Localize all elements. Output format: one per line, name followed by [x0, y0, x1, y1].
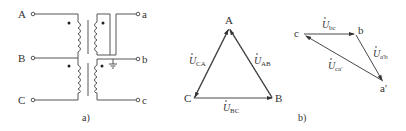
- phasor-label-UAB: U AB: [254, 53, 271, 68]
- terminal-c: c: [142, 94, 147, 106]
- vertex-B: B: [275, 92, 282, 104]
- phasor-label-Uab: U a'b: [373, 46, 388, 61]
- terminal-b: b: [142, 53, 148, 65]
- vertex-b: b: [358, 24, 364, 36]
- phasor-label-Ubc: U bc: [322, 17, 336, 32]
- phasor-label-Uca: U ca': [328, 58, 342, 73]
- polarity-dots: [68, 22, 105, 68]
- phasor-label-UBC: U BC: [223, 100, 240, 115]
- svg-text:ca': ca': [335, 65, 342, 73]
- terminal-C: C: [18, 94, 25, 106]
- transformer-schematic: [31, 12, 140, 102]
- phasor-label-UCA: U CA: [189, 53, 206, 68]
- caption-a: a): [82, 112, 90, 124]
- svg-text:BC: BC: [230, 107, 240, 115]
- caption-b: b): [298, 112, 306, 124]
- vertex-C: C: [184, 92, 191, 104]
- svg-text:AB: AB: [261, 60, 271, 68]
- phasor-triangle-cba: [304, 34, 383, 81]
- terminal-a: a: [142, 8, 147, 20]
- svg-text:bc: bc: [329, 24, 336, 32]
- svg-text:a'b: a'b: [380, 53, 388, 61]
- vertex-c: c: [294, 27, 299, 39]
- vertex-a-prime: a': [380, 82, 387, 94]
- vertex-A: A: [225, 14, 233, 26]
- terminal-A: A: [18, 8, 26, 20]
- figure: A B C a b c a) A B C U CA U AB U BC c b …: [0, 0, 406, 131]
- svg-text:CA: CA: [196, 60, 206, 68]
- terminal-B: B: [18, 52, 25, 64]
